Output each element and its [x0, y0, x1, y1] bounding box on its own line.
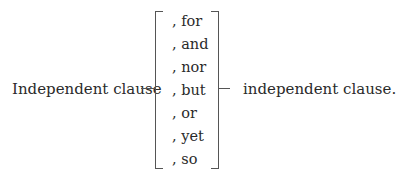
- right-clause-label: independent clause.: [243, 80, 396, 98]
- left-connector-line: [141, 88, 155, 89]
- left-bracket-top-tick: [155, 11, 163, 12]
- conjunction-item: , and: [172, 35, 208, 53]
- right-connector-line: [218, 88, 230, 89]
- conjunction-item: , or: [172, 104, 197, 122]
- right-bracket-top-tick: [211, 11, 219, 12]
- conjunction-item: , nor: [172, 58, 206, 76]
- conjunction-item: , for: [172, 12, 202, 30]
- left-clause-label: Independent clause: [12, 80, 162, 98]
- conjunction-item: , so: [172, 150, 197, 168]
- conjunction-item: , but: [172, 81, 206, 99]
- right-bracket-vertical: [218, 11, 219, 169]
- conjunction-item: , yet: [172, 127, 204, 145]
- right-bracket-bottom-tick: [211, 168, 219, 169]
- left-bracket-vertical: [155, 11, 156, 169]
- left-bracket-bottom-tick: [155, 168, 163, 169]
